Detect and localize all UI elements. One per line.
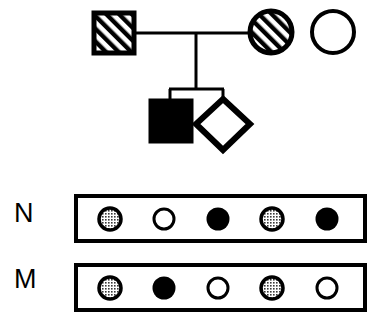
- pedigree-figure: [0, 0, 380, 322]
- marker-panel-N-label: N: [14, 200, 34, 227]
- panel-M-allele-3[interactable]: [208, 278, 228, 298]
- marker-panel-N[interactable]: [76, 196, 365, 241]
- half-shaded-dot: [99, 208, 121, 230]
- filled-dot: [207, 208, 230, 231]
- open-dot: [154, 209, 174, 229]
- panel-M-allele-2[interactable]: [153, 277, 176, 300]
- panel-N-allele-5[interactable]: [316, 208, 339, 231]
- half-shaded-dot: [261, 208, 283, 230]
- panel-M-allele-4[interactable]: [261, 277, 283, 299]
- panel-N-allele-4[interactable]: [261, 208, 283, 230]
- pedigree-individual-mother-hatched-circle[interactable]: [250, 11, 292, 53]
- filled-dot: [316, 208, 339, 231]
- panel-N-allele-3[interactable]: [207, 208, 230, 231]
- open-dot: [208, 278, 228, 298]
- open-dot: [317, 278, 337, 298]
- pedigree-individual-father-hatched-square[interactable]: [94, 13, 134, 53]
- half-shaded-dot: [99, 277, 121, 299]
- circle-outline-open: [312, 11, 354, 53]
- panel-M-allele-1[interactable]: [99, 277, 121, 299]
- panel-N-allele-1[interactable]: [99, 208, 121, 230]
- marker-panel-M[interactable]: [76, 265, 365, 310]
- pedigree-individual-open-circle[interactable]: [312, 11, 354, 53]
- marker-panel-M-label: M: [14, 266, 37, 293]
- filled-dot: [153, 277, 176, 300]
- square-hatch-fill: [94, 13, 134, 53]
- half-shaded-dot: [261, 277, 283, 299]
- panel-N-allele-2[interactable]: [154, 209, 174, 229]
- pedigree-individual-affected-son-filled-square[interactable]: [150, 100, 192, 142]
- panel-M-allele-5[interactable]: [317, 278, 337, 298]
- square-solid-fill: [150, 100, 192, 142]
